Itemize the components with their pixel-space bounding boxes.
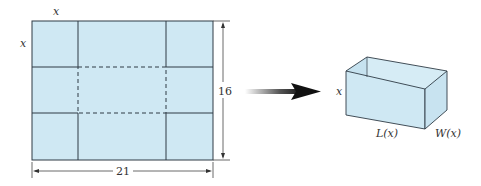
- arrowhead-down-icon: [221, 153, 225, 159]
- arrowhead-right-icon: [206, 169, 212, 173]
- sheet-height-label: 16: [218, 85, 232, 98]
- open-box: [346, 57, 447, 129]
- arrowhead-up-icon: [221, 22, 225, 28]
- cut-height-label: x: [20, 37, 27, 50]
- cut-width-label: x: [53, 5, 60, 18]
- box-height-label: x: [336, 85, 343, 98]
- box-length-label: L(x): [375, 127, 398, 140]
- arrowhead-left-icon: [33, 169, 39, 173]
- sheet-width-label: 21: [116, 165, 130, 178]
- box-width-label: W(x): [435, 127, 461, 140]
- arrow-right-icon: [245, 83, 321, 100]
- open-box-diagram: x x 16 21 x L(x) W(x): [0, 0, 481, 186]
- flat-sheet: [32, 21, 213, 160]
